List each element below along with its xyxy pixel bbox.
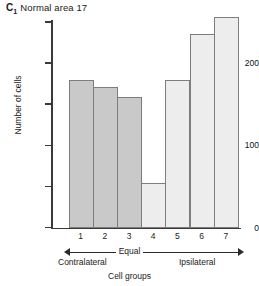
- bar: [165, 80, 190, 227]
- x-axis-tick-label: 1: [69, 231, 93, 241]
- bar: [117, 97, 142, 228]
- bar: [214, 17, 239, 227]
- range-arrow-line: [68, 252, 240, 253]
- bars-layer: [0, 0, 259, 286]
- x-axis-tick-label: 3: [117, 231, 141, 241]
- arrow-head-left-icon: [64, 248, 70, 256]
- x-axis-tick-label: 4: [141, 231, 165, 241]
- x-axis-tick-label: 6: [190, 231, 214, 241]
- x-axis-tick-label: 5: [165, 231, 189, 241]
- annotation-equal-text: Equal: [116, 246, 144, 256]
- x-axis-tick-label: 7: [214, 231, 238, 241]
- bar: [69, 80, 94, 228]
- x-axis-tick-label: 2: [93, 231, 117, 241]
- arrow-head-right-icon: [238, 248, 244, 256]
- bar: [93, 87, 118, 228]
- x-axis-title: Cell groups: [0, 271, 259, 281]
- bar: [141, 183, 166, 227]
- annotation-contralateral: Contralateral: [58, 257, 107, 267]
- annotation-ipsilateral: Ipsilateral: [179, 257, 215, 267]
- plot-area: Number of cells 0100200 1234567 Equal Co…: [0, 0, 259, 286]
- bar: [190, 34, 215, 227]
